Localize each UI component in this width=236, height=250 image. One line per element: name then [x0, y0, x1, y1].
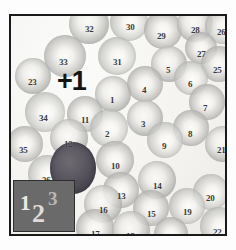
rbc-cell	[98, 37, 136, 75]
legend-item-1: 1	[20, 193, 31, 214]
legend-item-3: 3	[48, 189, 58, 208]
rbc-cell	[147, 122, 183, 158]
micrograph-frame: 3230292826273331525641734113281293521103…	[9, 14, 227, 236]
micrograph-page: 3230292826273331525641734113281293521103…	[0, 0, 236, 250]
plus-one-annotation: +1	[57, 68, 86, 95]
legend-item-2: 2	[32, 201, 45, 227]
rbc-cell	[127, 66, 163, 102]
rbc-cell	[15, 58, 51, 94]
legend-box: 1 2 3	[13, 180, 75, 232]
